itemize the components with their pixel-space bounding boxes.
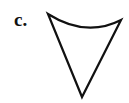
curved-triangle-shape	[0, 0, 129, 103]
